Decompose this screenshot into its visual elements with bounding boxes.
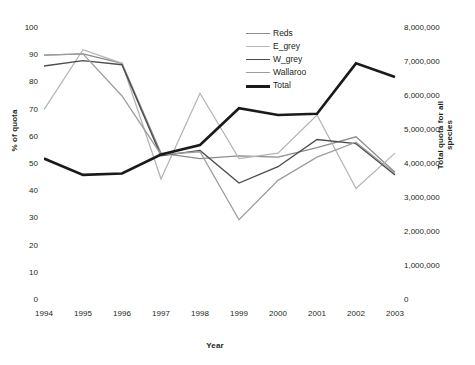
y-axis-left-tick: 10 [0,268,38,277]
y-axis-right-tick: 4,000,000 [404,159,464,168]
y-axis-left-tick: 0 [0,295,38,304]
legend-line-swatch [246,41,270,51]
legend-item-label: Total [270,80,291,90]
y-axis-left-tick: 30 [0,213,38,222]
y-axis-left-tick: 70 [0,105,38,114]
chart-legend: RedsE_greyW_greyWallarooTotal [246,26,336,91]
legend-item[interactable]: Reds [246,26,336,39]
legend-item-label: E_grey [270,41,300,51]
y-axis-left-tick: 90 [0,50,38,59]
x-axis-tick: 1994 [24,309,64,318]
legend-line-swatch [246,54,270,64]
x-axis-tick: 2002 [336,309,376,318]
chart-figure: % of quota Total quota for all species Y… [0,0,475,365]
legend-item-label: W_grey [270,54,302,64]
legend-item[interactable]: Total [246,78,336,91]
x-axis-tick: 2003 [375,309,415,318]
plot-area [44,28,396,300]
y-axis-right-tick: 8,000,000 [404,23,464,32]
legend-item[interactable]: E_grey [246,39,336,52]
x-axis-tick: 1998 [180,309,220,318]
series-line [44,50,395,189]
x-axis-tick: 1996 [102,309,142,318]
y-axis-left-tick: 50 [0,159,38,168]
x-axis-tick: 2001 [297,309,337,318]
legend-item-label: Wallaroo [270,67,306,77]
legend-item[interactable]: Wallaroo [246,65,336,78]
y-axis-right-tick: 2,000,000 [404,227,464,236]
legend-item-label: Reds [270,28,293,38]
series-line [44,63,395,175]
legend-line-swatch [246,28,270,38]
x-axis-title: Year [0,341,430,350]
y-axis-left-tick: 80 [0,77,38,86]
series-line [44,54,395,220]
y-axis-right-tick: 3,000,000 [404,193,464,202]
y-axis-right-tick: 1,000,000 [404,261,464,270]
x-axis-tick: 1999 [219,309,259,318]
legend-item[interactable]: W_grey [246,52,336,65]
y-axis-right-tick: 0 [404,295,464,304]
legend-line-swatch [246,80,270,90]
series-line [44,54,395,172]
y-axis-left-tick: 60 [0,132,38,141]
y-axis-left-tick: 20 [0,241,38,250]
y-axis-left-tick: 40 [0,186,38,195]
y-axis-left-tick: 100 [0,23,38,32]
y-axis-right-tick: 5,000,000 [404,125,464,134]
legend-line-swatch [246,67,270,77]
x-axis-tick: 1997 [141,309,181,318]
series-lines [44,28,396,300]
x-axis-tick: 1995 [63,309,103,318]
x-axis-tick: 2000 [258,309,298,318]
y-axis-right-tick: 6,000,000 [404,91,464,100]
y-axis-right-tick: 7,000,000 [404,57,464,66]
